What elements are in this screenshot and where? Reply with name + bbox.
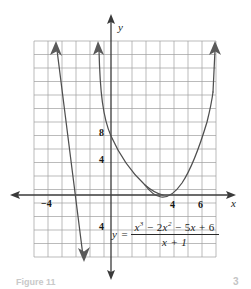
y-axis-label: y	[118, 22, 123, 33]
y-tick-label-4: 4	[99, 155, 104, 165]
equation-fraction: x3 − 2x2 − 5x + 6 x + 1	[131, 220, 219, 248]
numer-const: + 6	[196, 221, 215, 233]
curve-parabola-branch	[145, 41, 221, 197]
numer-op-1: − 2	[144, 221, 163, 233]
figure-caption: Figure 11	[16, 278, 56, 287]
x-tick-label-6: 6	[198, 200, 203, 210]
curve-left-branch	[50, 41, 90, 262]
left-branch-up-arrow-icon	[50, 41, 62, 56]
page-number: 3	[233, 277, 239, 287]
curve-asymptote-branch	[93, 41, 163, 195]
x-tick-label-minus4: −4	[41, 199, 52, 209]
function-equation: y = x3 − 2x2 − 5x + 6 x + 1	[112, 220, 219, 248]
y-tick-label-minus4: 4	[99, 222, 104, 232]
figure-container: y x −4 4 6 8 4 4 y = x3 − 2x2 − 5x + 6 x…	[0, 0, 251, 289]
equation-numerator: x3 − 2x2 − 5x + 6	[131, 220, 219, 234]
y-tick-label-8: 8	[99, 128, 104, 138]
equation-denominator: x + 1	[131, 235, 219, 248]
equation-lhs: y =	[112, 228, 129, 240]
x-axis-label: x	[231, 198, 236, 209]
left-branch-down-arrow-icon	[78, 247, 90, 262]
x-tick-label-4: 4	[170, 200, 175, 210]
numer-op-2: − 5	[172, 221, 191, 233]
